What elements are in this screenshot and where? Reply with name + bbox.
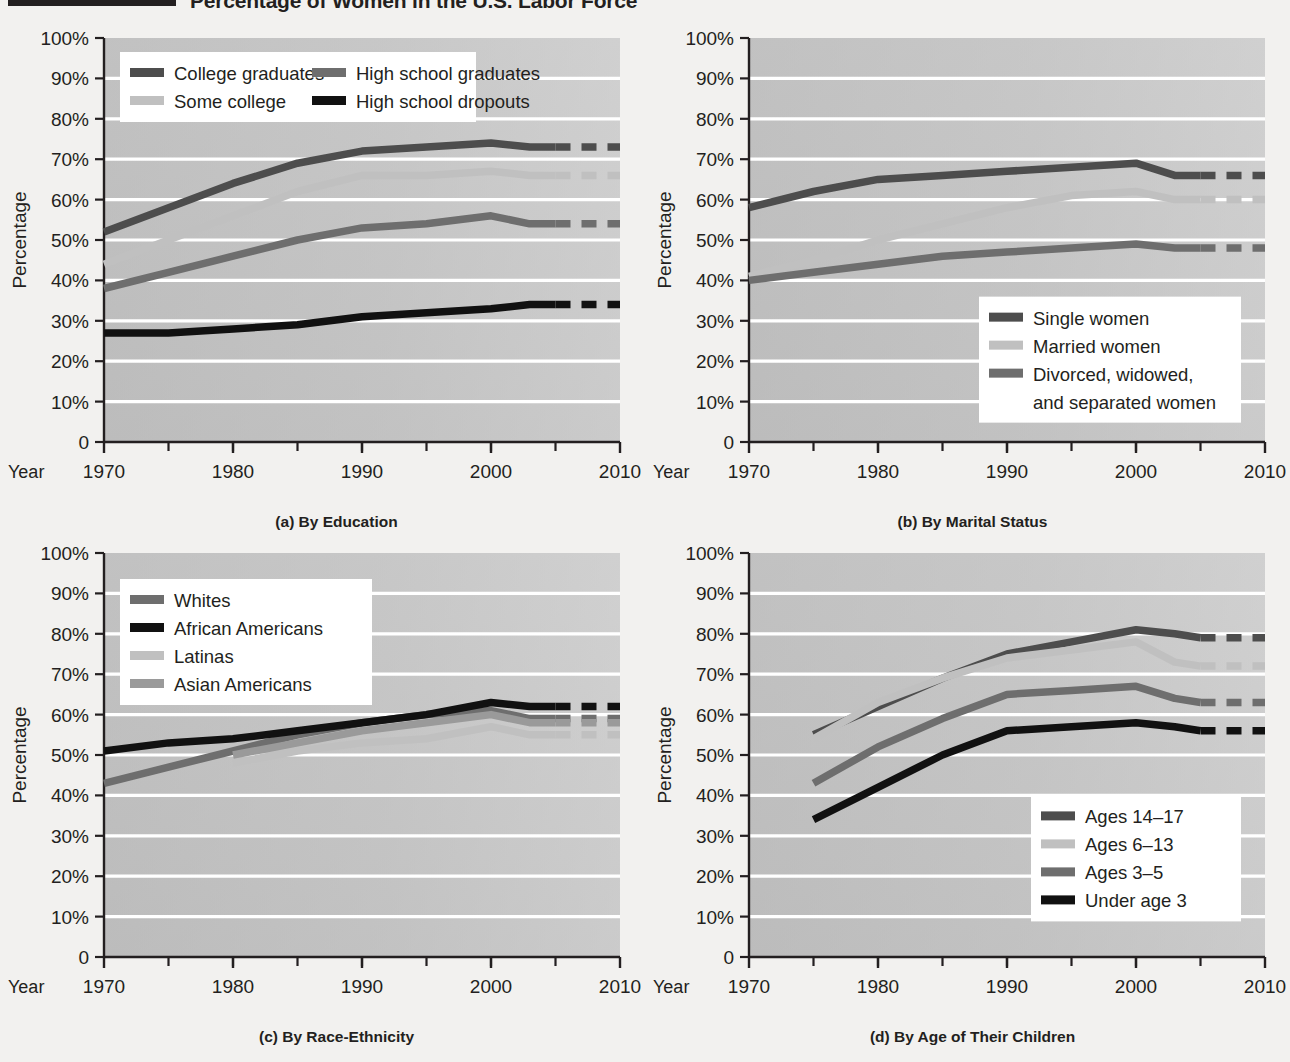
- x-tick-label: 1980: [857, 976, 899, 997]
- chart-c-caption: (c) By Race-Ethnicity: [0, 1028, 645, 1046]
- chart-c-canvas[interactable]: 100%90%80%70%60%50%40%30%20%10%0Percenta…: [0, 537, 645, 1007]
- x-axis-title: Year: [653, 462, 689, 482]
- legend-label[interactable]: Some college: [174, 91, 286, 112]
- chart-d-canvas[interactable]: 100%90%80%70%60%50%40%30%20%10%0Percenta…: [645, 537, 1282, 1007]
- y-tick-label: 40%: [51, 785, 89, 806]
- x-tick-label: 1980: [857, 461, 899, 482]
- x-axis-title: Year: [8, 977, 44, 997]
- legend-swatch: [130, 595, 164, 604]
- legend-swatch: [989, 341, 1023, 350]
- x-tick-label: 1970: [83, 976, 125, 997]
- legend-swatch: [312, 68, 346, 77]
- chart-b-caption: (b) By Marital Status: [645, 513, 1282, 531]
- y-axis-d: 100%90%80%70%60%50%40%30%20%10%0: [685, 543, 749, 968]
- legend-label[interactable]: Ages 3–5: [1085, 862, 1163, 883]
- y-axis-title: Percentage: [654, 706, 675, 803]
- x-tick-label: 2000: [1115, 461, 1157, 482]
- y-tick-label: 30%: [51, 826, 89, 847]
- chart-panel-by-marital-status: 100%90%80%70%60%50%40%30%20%10%0Percenta…: [645, 22, 1282, 537]
- y-tick-label: 10%: [51, 907, 89, 928]
- y-tick-label: 50%: [696, 230, 734, 251]
- y-tick-label: 0: [723, 947, 734, 968]
- y-axis-c: 100%90%80%70%60%50%40%30%20%10%0: [40, 543, 104, 968]
- x-tick-label: 2000: [1115, 976, 1157, 997]
- y-tick-label: 80%: [696, 109, 734, 130]
- legend-label[interactable]: Divorced, widowed,: [1033, 364, 1193, 385]
- legend-swatch: [1041, 839, 1075, 848]
- x-axis-a: 19701980199020002010Year: [8, 442, 641, 482]
- x-tick-label: 1990: [341, 976, 383, 997]
- y-tick-label: 70%: [51, 149, 89, 170]
- y-tick-label: 90%: [696, 583, 734, 604]
- y-tick-label: 50%: [51, 745, 89, 766]
- legend-b: Single womenMarried womenDivorced, widow…: [979, 297, 1241, 423]
- x-axis-b: 19701980199020002010Year: [653, 442, 1286, 482]
- page-title-bar: Percentage of Women in the U.S. Labor Fo…: [0, 0, 1282, 16]
- y-tick-label: 30%: [696, 826, 734, 847]
- chart-a-canvas[interactable]: 100%90%80%70%60%50%40%30%20%10%0Percenta…: [0, 22, 645, 492]
- legend-label[interactable]: High school dropouts: [356, 91, 530, 112]
- legend-swatch: [312, 96, 346, 105]
- x-tick-label: 1970: [83, 461, 125, 482]
- x-tick-label: 1990: [986, 976, 1028, 997]
- legend-label[interactable]: Ages 6–13: [1085, 834, 1173, 855]
- legend-label[interactable]: Under age 3: [1085, 890, 1187, 911]
- x-tick-label: 2000: [470, 976, 512, 997]
- x-tick-label: 2000: [470, 461, 512, 482]
- x-tick-label: 2010: [1244, 461, 1286, 482]
- y-tick-label: 90%: [51, 68, 89, 89]
- x-tick-label: 1990: [341, 461, 383, 482]
- legend-label[interactable]: African Americans: [174, 618, 323, 639]
- x-axis-d: 19701980199020002010Year: [653, 957, 1286, 997]
- legend-c: WhitesAfrican AmericansLatinasAsian Amer…: [120, 579, 372, 705]
- y-tick-label: 60%: [696, 190, 734, 211]
- x-tick-label: 2010: [599, 461, 641, 482]
- y-tick-label: 40%: [51, 270, 89, 291]
- y-tick-label: 70%: [696, 664, 734, 685]
- legend-label[interactable]: Single women: [1033, 308, 1149, 329]
- legend-label[interactable]: College graduates: [174, 63, 324, 84]
- y-tick-label: 100%: [685, 28, 734, 49]
- y-tick-label: 80%: [51, 109, 89, 130]
- x-tick-label: 2010: [599, 976, 641, 997]
- legend-label[interactable]: Asian Americans: [174, 674, 312, 695]
- y-axis-title: Percentage: [654, 191, 675, 288]
- legend-label[interactable]: Married women: [1033, 336, 1161, 357]
- y-axis-title: Percentage: [9, 706, 30, 803]
- y-tick-label: 80%: [696, 624, 734, 645]
- legend-label[interactable]: Latinas: [174, 646, 234, 667]
- legend-swatch: [1041, 811, 1075, 820]
- y-tick-label: 60%: [696, 705, 734, 726]
- y-tick-label: 100%: [40, 28, 89, 49]
- legend-swatch: [130, 679, 164, 688]
- legend-label[interactable]: and separated women: [1033, 392, 1216, 413]
- chart-svg-b: 100%90%80%70%60%50%40%30%20%10%0Percenta…: [645, 22, 1290, 492]
- page-title: Percentage of Women in the U.S. Labor Fo…: [190, 0, 637, 13]
- title-rule: [8, 0, 176, 6]
- chart-svg-d: 100%90%80%70%60%50%40%30%20%10%0Percenta…: [645, 537, 1290, 1007]
- legend-label[interactable]: Ages 14–17: [1085, 806, 1184, 827]
- y-tick-label: 90%: [51, 583, 89, 604]
- y-tick-label: 0: [78, 432, 89, 453]
- y-tick-label: 20%: [696, 351, 734, 372]
- chart-svg-a: 100%90%80%70%60%50%40%30%20%10%0Percenta…: [0, 22, 645, 492]
- legend-swatch: [130, 96, 164, 105]
- y-axis-a: 100%90%80%70%60%50%40%30%20%10%0: [40, 28, 104, 453]
- x-tick-label: 2010: [1244, 976, 1286, 997]
- chart-d-caption: (d) By Age of Their Children: [645, 1028, 1282, 1046]
- y-tick-label: 60%: [51, 190, 89, 211]
- legend-swatch: [130, 623, 164, 632]
- legend-label[interactable]: Whites: [174, 590, 231, 611]
- legend-swatch: [989, 313, 1023, 322]
- legend-swatch: [130, 68, 164, 77]
- y-tick-label: 30%: [51, 311, 89, 332]
- y-tick-label: 60%: [51, 705, 89, 726]
- x-tick-label: 1970: [728, 461, 770, 482]
- y-tick-label: 50%: [51, 230, 89, 251]
- legend-label[interactable]: High school graduates: [356, 63, 540, 84]
- x-tick-label: 1980: [212, 461, 254, 482]
- legend-swatch: [1041, 867, 1075, 876]
- chart-panel-by-education: 100%90%80%70%60%50%40%30%20%10%0Percenta…: [0, 22, 645, 537]
- chart-b-canvas[interactable]: 100%90%80%70%60%50%40%30%20%10%0Percenta…: [645, 22, 1282, 492]
- y-tick-label: 30%: [696, 311, 734, 332]
